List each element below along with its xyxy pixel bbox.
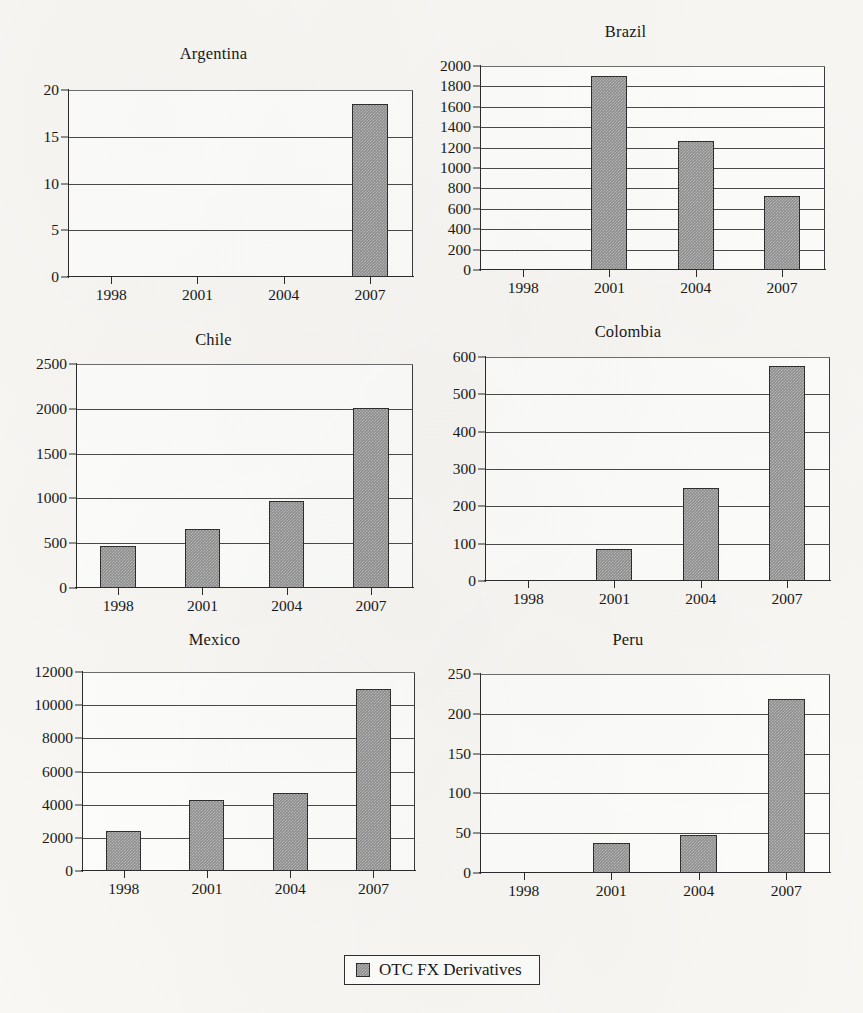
y-axis-tick-label: 5 [51, 221, 68, 239]
x-axis-tick-label: 2004 [683, 882, 714, 900]
chart-legend: OTC FX Derivatives [344, 955, 540, 985]
x-tick-mark [290, 871, 291, 878]
gridline [480, 674, 830, 675]
x-tick-mark [207, 871, 208, 878]
y-axis-tick-label: 500 [44, 534, 76, 552]
x-tick-mark [782, 270, 783, 277]
legend-swatch-icon [356, 963, 370, 977]
y-axis-tick-label: 2500 [36, 355, 76, 373]
bar-peru-2004 [680, 835, 717, 873]
y-axis-tick-label: 1200 [440, 139, 480, 157]
gridline [480, 66, 825, 67]
x-tick-mark [370, 277, 371, 284]
y-axis-tick-label: 200 [448, 705, 480, 723]
chart-panel-argentina: Argentina [14, 44, 443, 45]
x-tick-mark [786, 873, 787, 880]
x-axis-tick-label: 2001 [182, 286, 213, 304]
chart-title-peru: Peru [426, 630, 830, 650]
gridline [485, 357, 830, 358]
y-axis-tick-label: 0 [65, 862, 82, 880]
y-axis-tick-label: 0 [51, 268, 68, 286]
y-axis-tick-label: 50 [456, 824, 481, 842]
x-axis-tick-label: 2001 [191, 880, 222, 898]
y-axis-tick-label: 600 [448, 200, 480, 218]
x-axis-tick-label: 2007 [771, 590, 802, 608]
y-axis-tick-label: 12000 [34, 663, 82, 681]
y-axis-tick-label: 1500 [36, 445, 76, 463]
x-tick-mark [528, 581, 529, 588]
bar-mexico-2004 [273, 793, 308, 871]
y-axis-tick-label: 200 [448, 241, 480, 259]
x-tick-mark [371, 588, 372, 595]
x-tick-mark [284, 277, 285, 284]
chart-panel-brazil: Brazil [426, 22, 855, 23]
chart-title-colombia: Colombia [426, 322, 830, 342]
bar-mexico-2007 [356, 689, 391, 871]
bar-mexico-1998 [106, 831, 141, 871]
gridline [480, 86, 825, 87]
bar-chile-2007 [353, 408, 388, 588]
x-axis-tick-label: 2004 [268, 286, 299, 304]
y-axis-line [480, 65, 481, 271]
x-tick-mark [287, 588, 288, 595]
y-axis-tick-label: 0 [468, 572, 485, 590]
y-axis-line [485, 356, 486, 582]
x-tick-mark [699, 873, 700, 880]
x-axis-tick-label: 1998 [508, 882, 539, 900]
bar-chile-2001 [185, 529, 220, 588]
bar-colombia-2004 [683, 488, 719, 581]
y-axis-tick-label: 1000 [440, 159, 480, 177]
y-axis-tick-label: 4000 [42, 796, 82, 814]
gridline [480, 168, 825, 169]
gridline [82, 672, 415, 673]
y-axis-tick-label: 800 [448, 179, 480, 197]
x-tick-mark [524, 873, 525, 880]
x-axis-tick-label: 2004 [680, 279, 711, 297]
x-tick-mark [611, 873, 612, 880]
y-axis-tick-label: 1800 [440, 77, 480, 95]
bar-peru-2001 [593, 843, 630, 873]
y-axis-tick-label: 600 [453, 348, 485, 366]
bar-colombia-2007 [769, 366, 805, 581]
x-axis-tick-label: 2004 [271, 597, 302, 615]
x-tick-mark [523, 270, 524, 277]
x-axis-tick-label: 2001 [599, 590, 630, 608]
y-axis-tick-label: 200 [453, 497, 485, 515]
x-axis-tick-label: 2004 [275, 880, 306, 898]
x-tick-mark [111, 277, 112, 284]
x-tick-mark [124, 871, 125, 878]
x-axis-tick-label: 2007 [771, 882, 802, 900]
plot-area-brazil: 0200400600800100012001400160018002000199… [480, 66, 825, 270]
y-axis-line [82, 671, 83, 872]
y-axis-tick-label: 15 [44, 128, 69, 146]
y-axis-line [68, 89, 69, 278]
chart-title-brazil: Brazil [426, 22, 825, 42]
y-axis-tick-label: 0 [463, 864, 480, 882]
x-axis-tick-label: 1998 [508, 279, 539, 297]
bar-brazil-2001 [591, 76, 627, 270]
y-axis-tick-label: 400 [448, 220, 480, 238]
y-axis-tick-label: 20 [44, 81, 69, 99]
x-axis-tick-label: 1998 [96, 286, 127, 304]
small-multiples-chart-grid: Argentina051015201998200120042007Brazil0… [0, 0, 863, 1013]
y-axis-tick-label: 1000 [36, 489, 76, 507]
x-axis-tick-label: 2001 [596, 882, 627, 900]
x-axis-tick-label: 1998 [108, 880, 139, 898]
y-axis-tick-label: 300 [453, 460, 485, 478]
gridline [68, 90, 413, 91]
x-tick-mark [202, 588, 203, 595]
bar-brazil-2007 [764, 196, 800, 270]
bar-peru-2007 [768, 699, 805, 873]
legend-label: OTC FX Derivatives [379, 960, 522, 980]
gridline [480, 127, 825, 128]
x-tick-mark [787, 581, 788, 588]
y-axis-tick-label: 250 [448, 665, 480, 683]
x-axis-tick-label: 2007 [354, 286, 385, 304]
x-axis-tick-label: 2001 [594, 279, 625, 297]
y-axis-tick-label: 400 [453, 423, 485, 441]
y-axis-tick-label: 0 [463, 261, 480, 279]
y-axis-line [76, 363, 77, 589]
x-tick-mark [118, 588, 119, 595]
y-axis-tick-label: 1600 [440, 98, 480, 116]
plot-area-chile: 050010001500200025001998200120042007 [76, 364, 413, 588]
